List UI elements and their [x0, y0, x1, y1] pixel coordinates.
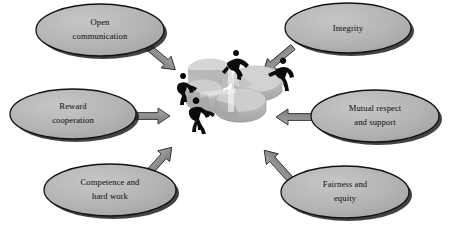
diagram-canvas: Open communication Integrity Reward coop… [0, 0, 449, 228]
node-label-line-1: Integrity [333, 23, 364, 33]
node-label-line-1: Mutual respect [349, 103, 402, 113]
node-label-line-1: Fairness and [323, 179, 368, 189]
node-label-line-2: hard work [92, 191, 129, 201]
node-label-line-2: equity [334, 193, 357, 203]
node-label-line-1: Reward [59, 101, 87, 111]
node-label-line-2: communication [73, 31, 128, 41]
node-label-line-2: cooperation [52, 115, 94, 125]
node-label-line-1: Open [90, 17, 110, 27]
node-label-line-2: and support [354, 117, 396, 127]
node-label-line-1: Competence and [81, 177, 141, 187]
